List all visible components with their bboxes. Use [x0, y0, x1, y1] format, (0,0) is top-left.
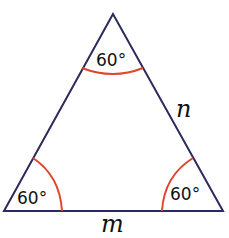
side-label-n: n	[176, 95, 191, 123]
angle-label-top: 60°	[96, 50, 126, 70]
triangle-diagram: 60° 60° 60° n m	[0, 0, 229, 238]
side-label-m: m	[101, 210, 124, 238]
angle-label-bottom-right: 60°	[170, 184, 200, 204]
angle-label-bottom-left: 60°	[17, 188, 47, 208]
